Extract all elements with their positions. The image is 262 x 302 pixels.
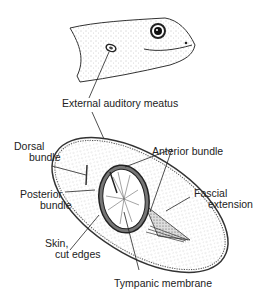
frog-head [70,18,195,82]
label-skin-cut-edges: cut edges [55,248,101,260]
label-posterior-bundle: bundle [40,199,72,211]
label-external-auditory-meatus: External auditory meatus [62,97,178,109]
dorsal-bundle [86,165,87,185]
label-dorsal-bundle: bundle [29,151,61,163]
label-anterior-bundle: Anterior bundle [152,145,223,157]
label-tympanic-membrane: Tympanic membrane [114,277,212,289]
label-fascial-extension: extension [208,198,253,210]
